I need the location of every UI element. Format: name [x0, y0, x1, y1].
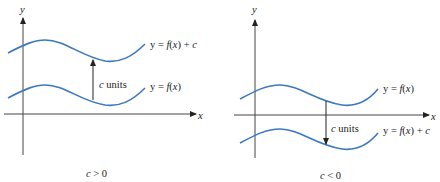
caption: c < 0	[320, 170, 341, 181]
lower-curve-label: y = f(x) + c	[383, 125, 430, 137]
upper-curve-f-plus-c	[8, 40, 145, 61]
left-panel: y x c units y = f(x) + c y = f(x) c > 0	[4, 4, 203, 179]
upper-curve-label: y = f(x) + c	[150, 39, 197, 51]
upper-curve-f	[240, 85, 378, 105]
shift-label: c units	[331, 123, 359, 134]
vertical-shift-diagram: y x c units y = f(x) + c y = f(x) c > 0 …	[0, 0, 440, 182]
caption: c > 0	[86, 168, 107, 179]
right-panel: y x c units y = f(x) y = f(x) + c c < 0	[234, 4, 436, 181]
y-axis-label: y	[251, 4, 257, 15]
shift-label: c units	[99, 79, 127, 90]
y-axis-label: y	[19, 4, 25, 15]
lower-curve-label: y = f(x)	[150, 81, 182, 93]
upper-curve-label: y = f(x)	[383, 83, 415, 95]
x-axis-label: x	[197, 110, 203, 121]
x-axis-label: x	[430, 111, 436, 122]
